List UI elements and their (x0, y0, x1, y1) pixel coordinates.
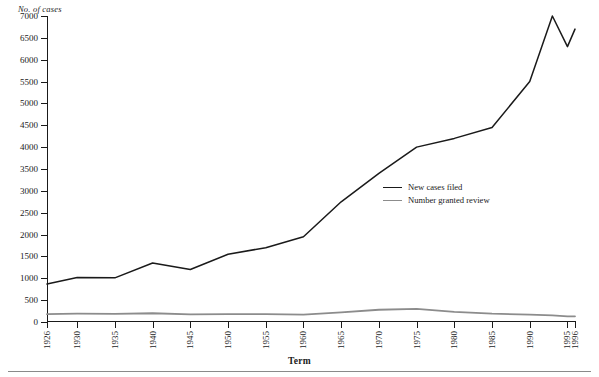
x-tick-mark (575, 321, 576, 328)
x-tick-label: 1980 (450, 331, 459, 349)
x-tick-mark (77, 321, 78, 328)
x-tick-label: 1970 (374, 331, 383, 349)
x-tick-label: 1940 (148, 331, 157, 349)
plot-area: 0500100015002000250030003500400045005000… (47, 16, 575, 322)
x-tick-mark (266, 321, 267, 328)
x-tick-mark (228, 321, 229, 328)
x-tick-label: 1945 (186, 331, 195, 349)
x-tick-mark (153, 321, 154, 328)
y-tick-label: 5500 (20, 77, 38, 86)
x-tick-label: 1960 (299, 331, 308, 349)
y-tick-label: 7000 (20, 12, 38, 21)
y-tick-label: 1500 (20, 252, 38, 261)
series-line (47, 309, 575, 316)
chart-figure: No. of cases 050010001500200025003000350… (0, 0, 599, 377)
x-tick-mark (47, 321, 48, 328)
x-tick-mark (190, 321, 191, 328)
y-tick-label: 5000 (20, 99, 38, 108)
y-tick-label: 3500 (20, 165, 38, 174)
x-tick-mark (492, 321, 493, 328)
y-tick-label: 0 (34, 318, 39, 327)
x-tick-mark (417, 321, 418, 328)
series-lines (47, 16, 575, 322)
y-tick-label: 4000 (20, 143, 38, 152)
x-tick-label: 1965 (337, 331, 346, 349)
x-tick-mark (454, 321, 455, 328)
x-tick-label: 1996 (571, 331, 580, 349)
y-tick-label: 3000 (20, 186, 38, 195)
legend-label: Number granted review (408, 194, 490, 207)
x-tick-label: 1930 (73, 331, 82, 349)
legend-item-new-cases-filed: New cases filed (383, 181, 490, 194)
x-tick-mark (530, 321, 531, 328)
chart-legend: New cases filed Number granted review (383, 181, 490, 208)
y-tick-label: 1000 (20, 274, 38, 283)
figure-bottom-rule (8, 371, 591, 372)
y-tick-label: 2000 (20, 230, 38, 239)
legend-swatch-icon (383, 200, 402, 201)
y-tick-label: 500 (25, 296, 39, 305)
x-tick-label: 1975 (412, 331, 421, 349)
y-tick-label: 4500 (20, 121, 38, 130)
y-tick-label: 2500 (20, 208, 38, 217)
series-line (47, 16, 575, 284)
x-tick-label: 1985 (488, 331, 497, 349)
x-tick-label: 1935 (110, 331, 119, 349)
x-tick-label: 1950 (224, 331, 233, 349)
x-tick-label: 1990 (525, 331, 534, 349)
x-tick-label: 1926 (43, 331, 52, 349)
x-axis-title: Term (0, 356, 599, 366)
x-tick-mark (115, 321, 116, 328)
x-tick-mark (567, 321, 568, 328)
legend-swatch-icon (383, 187, 402, 188)
x-tick-label: 1955 (261, 331, 270, 349)
legend-item-number-granted-review: Number granted review (383, 194, 490, 207)
x-tick-mark (341, 321, 342, 328)
y-tick-label: 6000 (20, 55, 38, 64)
x-tick-mark (379, 321, 380, 328)
legend-label: New cases filed (408, 181, 462, 194)
y-tick-label: 6500 (20, 33, 38, 42)
x-tick-mark (303, 321, 304, 328)
